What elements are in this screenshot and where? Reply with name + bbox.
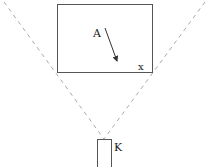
device-rectangle	[98, 140, 112, 168]
label-x: x	[138, 61, 144, 72]
diagram-canvas: A x K	[0, 0, 206, 167]
label-a: A	[92, 27, 102, 40]
label-k: K	[114, 141, 123, 154]
